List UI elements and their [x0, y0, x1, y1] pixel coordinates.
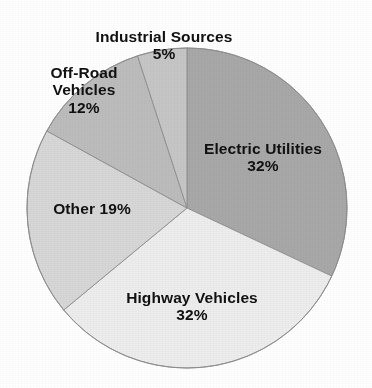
pie-chart: Electric Utilities 32% Highway Vehicles …	[0, 0, 372, 388]
slice-label-off-road-vehicles: Off-Road Vehicles 12%	[22, 64, 146, 116]
slice-label-electric-utilities: Electric Utilities 32%	[192, 140, 334, 175]
slice-label-industrial-sources: Industrial Sources 5%	[68, 28, 260, 63]
slice-label-other: Other 19%	[30, 200, 154, 217]
slice-label-highway-vehicles: Highway Vehicles 32%	[116, 289, 268, 324]
